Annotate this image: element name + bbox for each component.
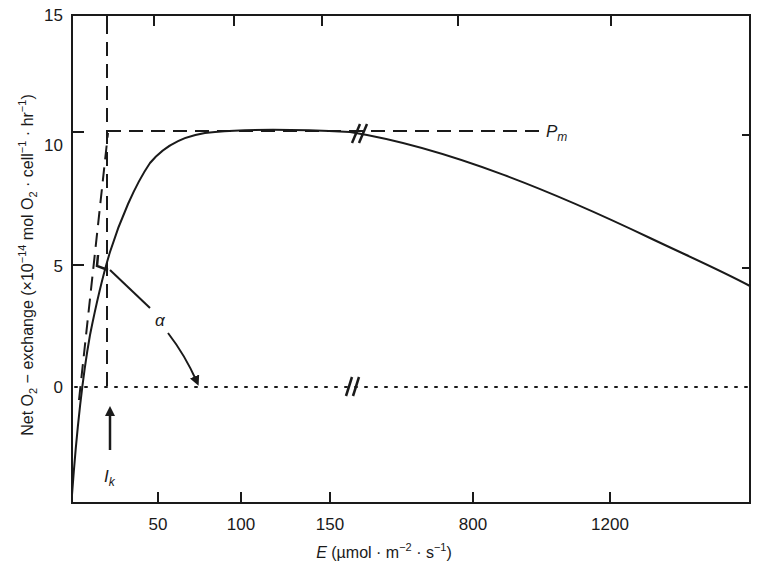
axis-break-mark-zero (346, 377, 359, 396)
x-axis-title: E (µmol · m−2 · s−1) (316, 541, 452, 561)
alpha-arrow-lower (168, 333, 197, 382)
alpha-label: α (155, 311, 166, 330)
alpha-arrow-upper (110, 270, 150, 308)
alpha-slope-dashed-line (79, 133, 108, 400)
x-tick-label-800: 800 (459, 515, 487, 534)
y-tick-label-5: 5 (54, 257, 63, 276)
x-tick-label-100: 100 (227, 515, 255, 534)
x-tick-label-150: 150 (316, 515, 344, 534)
y-axis-title: Net O2 − exchange (×10−14 mol O2 · cell−… (16, 94, 39, 436)
pe-curve-chart: 15 10 5 0 50 100 150 800 1200 E (µmol · … (0, 0, 761, 577)
x-axis-ticks-top (107, 15, 611, 26)
y-tick-label-15: 15 (44, 6, 63, 25)
y-axis-ticks-right (742, 135, 750, 268)
x-axis-ticks-bottom (158, 492, 610, 503)
y-tick-label-0: 0 (54, 378, 63, 397)
y-tick-label-10: 10 (44, 136, 63, 155)
pe-curve (72, 130, 750, 495)
ik-label: Ik (104, 467, 116, 489)
pm-label: Pm (546, 122, 567, 144)
plot-frame (72, 15, 750, 503)
x-tick-label-50: 50 (149, 515, 168, 534)
x-tick-label-1200: 1200 (591, 515, 629, 534)
y-axis-ticks-left (72, 132, 84, 265)
